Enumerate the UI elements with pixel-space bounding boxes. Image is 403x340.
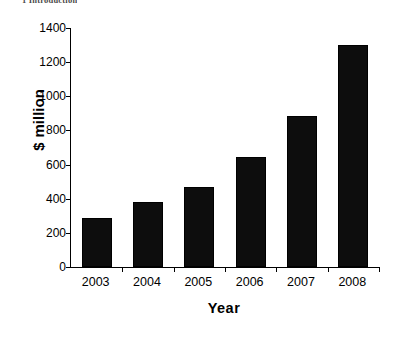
x-axis-tick-label: 2006 [228, 275, 272, 289]
x-axis-tick-label: 2003 [74, 275, 118, 289]
y-axis-tick-label: 0 [24, 261, 66, 273]
bar-2005 [184, 187, 214, 267]
x-axis-title: Year [70, 300, 378, 316]
y-axis-tick-label: 200 [24, 227, 66, 239]
bar-2004 [133, 202, 163, 267]
y-axis-tick-mark [66, 96, 71, 97]
x-axis-tick-label: 2008 [330, 275, 374, 289]
y-axis-tick-label: 800 [24, 124, 66, 136]
y-axis-tick-label: 1200 [24, 56, 66, 68]
x-axis-tick-labels: 200320042005200620072008 [70, 275, 378, 293]
y-axis-tick-mark [66, 28, 71, 29]
x-axis-tick-mark [379, 267, 380, 272]
bar-2006 [236, 157, 266, 267]
x-axis-tick-mark [276, 267, 277, 272]
plot-area [70, 28, 379, 268]
bar-2008 [338, 45, 368, 267]
y-axis-tick-label: 1400 [24, 22, 66, 34]
y-axis-tick-mark [66, 165, 71, 166]
y-axis-tick-label: 1000 [24, 90, 66, 102]
x-axis-tick-mark [328, 267, 329, 272]
y-axis-tick-mark [66, 62, 71, 63]
y-axis-tick-mark [66, 199, 71, 200]
y-axis-tick-labels: 0200400600800100012001400 [24, 18, 66, 278]
bar-chart-figure: $ million 0200400600800100012001400 2003… [0, 0, 403, 340]
y-axis-tick-label: 400 [24, 193, 66, 205]
y-axis-tick-label: 600 [24, 159, 66, 171]
bar-2007 [287, 116, 317, 267]
x-axis-tick-label: 2005 [176, 275, 220, 289]
bar-series [71, 28, 379, 267]
x-axis-tick-label: 2007 [279, 275, 323, 289]
bar-2003 [82, 218, 112, 267]
x-axis-tick-label: 2004 [125, 275, 169, 289]
x-axis-tick-mark [122, 267, 123, 272]
y-axis-tick-mark [66, 233, 71, 234]
y-axis-tick-mark [66, 267, 71, 268]
x-axis-tick-mark [225, 267, 226, 272]
y-axis-tick-mark [66, 130, 71, 131]
x-axis-tick-mark [174, 267, 175, 272]
